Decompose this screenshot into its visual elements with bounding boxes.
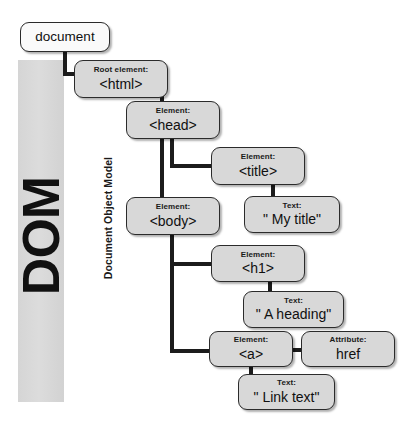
node-h1-value: <h1>: [242, 260, 274, 276]
node-title-kind: Element:: [241, 153, 276, 162]
node-head-kind: Element:: [156, 107, 191, 116]
node-h1-text-kind: Text:: [284, 297, 303, 306]
node-head[interactable]: Element: <head>: [126, 101, 220, 139]
node-a[interactable]: Element: <a>: [209, 331, 293, 367]
dom-acronym-label: DOM: [15, 116, 67, 356]
node-h1-text-value: " A heading": [256, 306, 331, 322]
node-a-text-kind: Text:: [277, 379, 296, 388]
node-title[interactable]: Element: <title>: [211, 147, 305, 185]
node-document[interactable]: document: [20, 22, 110, 52]
node-title-text[interactable]: Text: " My title": [244, 196, 340, 233]
node-title-text-kind: Text:: [282, 202, 301, 211]
node-html[interactable]: Root element: <html>: [74, 60, 168, 98]
dom-label-band: DOM Document Object Model: [18, 60, 64, 402]
connector-document-html-vertical: [63, 50, 67, 74]
node-head-value: <head>: [149, 117, 197, 133]
dom-diagram: DOM Document Object Model document Root …: [0, 0, 406, 430]
connector-head-title: [170, 164, 212, 168]
node-h1[interactable]: Element: <h1>: [211, 245, 305, 282]
node-document-value: document: [35, 29, 94, 45]
node-title-value: <title>: [239, 163, 277, 179]
node-a-text[interactable]: Text: " Link text": [238, 374, 335, 410]
node-href-kind: Attribute:: [330, 336, 367, 345]
node-h1-kind: Element:: [241, 251, 276, 260]
node-html-value: <html>: [100, 76, 143, 92]
node-h1-text[interactable]: Text: " A heading": [243, 291, 344, 328]
dom-band-inner: DOM Document Object Model: [18, 60, 64, 402]
node-html-kind: Root element:: [94, 66, 149, 75]
node-body[interactable]: Element: <body>: [126, 197, 220, 235]
node-a-value: <a>: [239, 346, 263, 362]
node-a-text-value: " Link text": [254, 389, 320, 405]
connector-body-h1: [170, 262, 212, 266]
connector-body-a: [170, 349, 210, 353]
node-title-text-value: " My title": [263, 211, 321, 227]
node-body-value: <body>: [150, 213, 197, 229]
node-body-kind: Element:: [156, 203, 191, 212]
node-href-value: href: [336, 346, 360, 362]
connector-body-trunk: [170, 235, 174, 353]
node-href[interactable]: Attribute: href: [301, 331, 395, 367]
node-a-kind: Element:: [234, 336, 269, 345]
dom-expansion-label: Document Object Model: [102, 138, 114, 298]
